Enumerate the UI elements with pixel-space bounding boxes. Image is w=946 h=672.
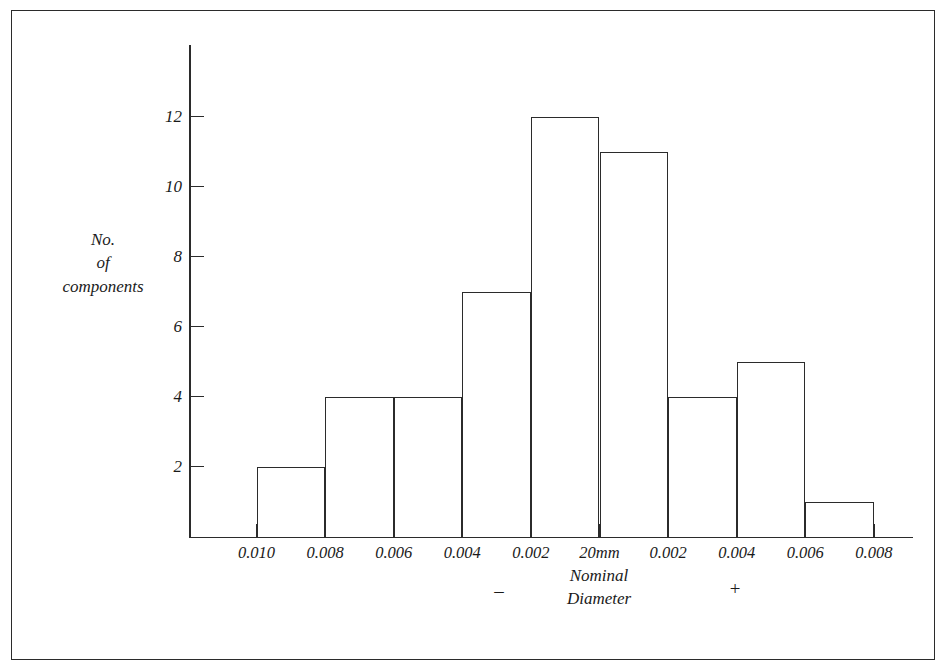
- x-axis-title-line: Diameter: [543, 587, 655, 610]
- histogram-bar: [394, 397, 463, 537]
- y-axis-tick: [191, 326, 204, 328]
- y-axis-tick-label-wrap: 12: [132, 117, 182, 118]
- figure-page: 24681012 0.0100.0080.0060.0040.00220mm0.…: [0, 0, 946, 672]
- y-axis-title-line: components: [38, 275, 168, 298]
- histogram-bar: [668, 397, 737, 537]
- histogram-bar: [531, 117, 600, 537]
- x-axis-title-line: Nominal: [543, 564, 655, 587]
- y-axis-tick-label: 6: [142, 318, 182, 335]
- x-axis-tick-label: 0.008: [819, 543, 929, 563]
- y-axis-tick: [191, 116, 204, 118]
- histogram-plot: 24681012 0.0100.0080.0060.0040.00220mm0.…: [0, 0, 946, 672]
- y-axis-title-line: of: [38, 251, 168, 274]
- y-axis-tick: [191, 396, 204, 398]
- y-axis-title-line: No.: [38, 228, 168, 251]
- y-axis-title: No.ofcomponents: [38, 228, 168, 298]
- y-axis-tick-label-wrap: 4: [132, 397, 182, 398]
- y-axis-tick-label: 12: [142, 108, 182, 125]
- y-axis-tick-label-wrap: 6: [132, 327, 182, 328]
- y-axis-tick-label: 2: [142, 458, 182, 475]
- y-axis-line: [189, 45, 191, 538]
- y-axis-tick-label-wrap: 10: [132, 187, 182, 188]
- histogram-bar: [325, 397, 394, 537]
- histogram-bar: [737, 362, 806, 537]
- y-axis-tick-label-wrap: 2: [132, 467, 182, 468]
- y-axis-tick: [191, 466, 204, 468]
- y-axis-tick: [191, 186, 204, 188]
- minus-sign-annotation: –: [487, 580, 511, 602]
- y-axis-tick: [191, 256, 204, 258]
- histogram-bar: [805, 502, 874, 537]
- histogram-bar: [257, 467, 326, 537]
- histogram-bar: [462, 292, 531, 537]
- y-axis-tick-label: 10: [142, 178, 182, 195]
- histogram-bar: [600, 152, 669, 537]
- plus-sign-annotation: +: [723, 578, 747, 600]
- x-axis-title: NominalDiameter: [543, 564, 655, 611]
- y-axis-tick-label: 4: [142, 388, 182, 405]
